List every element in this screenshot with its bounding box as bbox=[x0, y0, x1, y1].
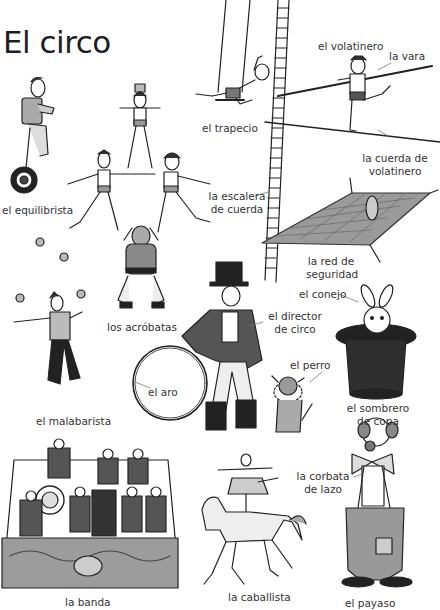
ringmaster-icon bbox=[182, 262, 262, 430]
trapeze-icon bbox=[196, 0, 269, 104]
label-cuerda-volatinero: la cuerda de volatinero bbox=[355, 152, 435, 178]
juggler-icon bbox=[14, 238, 85, 384]
label-director-line2: de circo bbox=[266, 323, 324, 336]
horse-rider-icon bbox=[202, 454, 306, 584]
label-corbata-de-lazo: la corbata de lazo bbox=[295, 470, 351, 496]
label-equilibrista: el equilibrista bbox=[2, 204, 73, 217]
label-vara: la vara bbox=[389, 50, 425, 63]
label-acrobatas: los acróbatas bbox=[107, 321, 177, 334]
label-corbata-line1: la corbata bbox=[295, 470, 351, 483]
label-payaso: el payaso bbox=[345, 597, 395, 610]
label-director-de-circo: el director de circo bbox=[266, 310, 324, 336]
acrobats-icon bbox=[68, 84, 210, 308]
label-sombrero-line1: el sombrero bbox=[346, 402, 410, 415]
dog-icon bbox=[272, 376, 312, 432]
label-escalera-line2: de cuerda bbox=[208, 203, 266, 216]
label-escalera-de-cuerda: la escalera de cuerda bbox=[208, 190, 266, 216]
label-conejo: el conejo bbox=[299, 288, 346, 301]
label-red-line1: la red de bbox=[306, 255, 356, 268]
band-icon bbox=[2, 439, 178, 588]
label-perro: el perro bbox=[290, 359, 330, 372]
hoop-icon bbox=[133, 346, 207, 420]
label-trapecio: el trapecio bbox=[202, 122, 258, 135]
top-hat-icon bbox=[336, 324, 416, 399]
label-volatinero: el volatinero bbox=[318, 40, 383, 53]
label-malabarista: el malabarista bbox=[36, 415, 111, 428]
label-cuerda-volatinero-line1: la cuerda de bbox=[355, 152, 435, 165]
safety-net-icon bbox=[262, 178, 438, 262]
page-title: El circo bbox=[3, 24, 111, 60]
label-banda: la banda bbox=[65, 596, 111, 609]
unicyclist-icon bbox=[11, 78, 54, 194]
label-aro: el aro bbox=[148, 386, 178, 399]
label-corbata-line2: de lazo bbox=[295, 483, 351, 496]
label-sombrero-line2: de copa bbox=[346, 415, 410, 428]
label-escalera-line1: la escalera bbox=[208, 190, 266, 203]
label-red-line2: seguridad bbox=[306, 268, 356, 281]
label-red-de-seguridad: la red de seguridad bbox=[306, 255, 356, 281]
clown-icon bbox=[342, 418, 412, 587]
label-cuerda-volatinero-line2: volatinero bbox=[355, 165, 435, 178]
label-caballista: la caballista bbox=[228, 591, 291, 604]
tightrope-walker-icon bbox=[265, 56, 440, 142]
label-director-line1: el director bbox=[266, 310, 324, 323]
label-sombrero-de-copa: el sombrero de copa bbox=[346, 402, 410, 428]
